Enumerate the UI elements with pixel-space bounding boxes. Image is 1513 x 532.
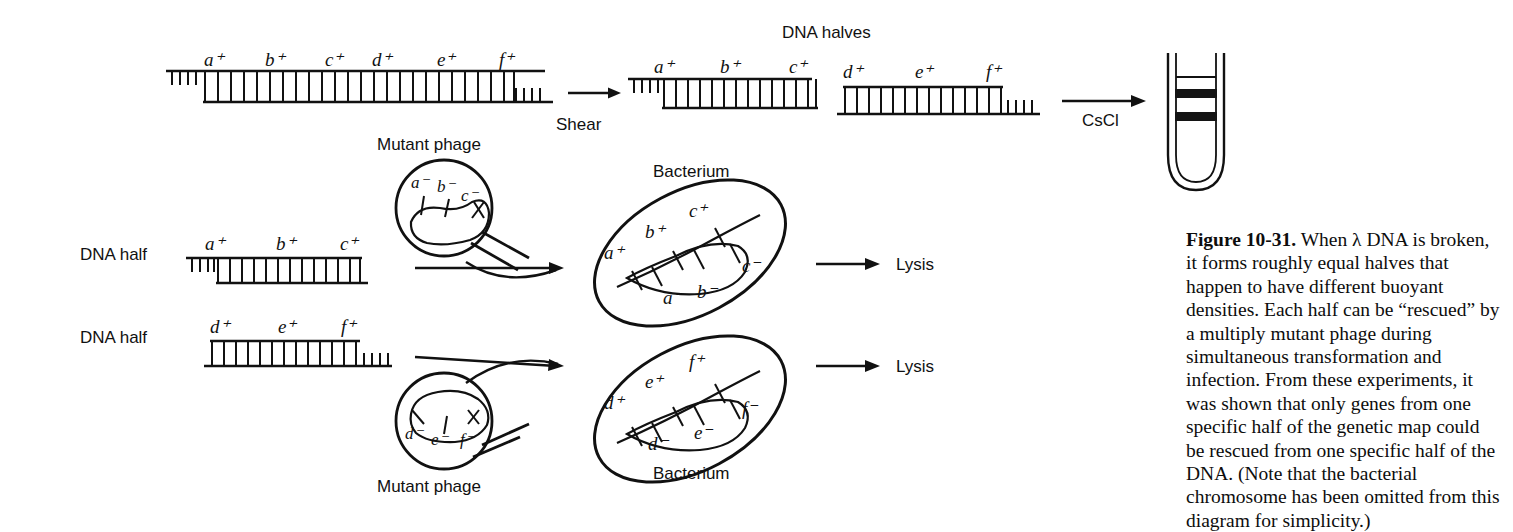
gene-label-f-plus-intact: f⁺ — [499, 50, 514, 69]
figure-caption-body: When λ DNA is broken, it forms roughly e… — [1186, 229, 1500, 531]
arrow-phage-1-to-bacterium — [466, 262, 556, 277]
phage-chromosome — [627, 244, 748, 294]
shear-label: Shear — [556, 116, 601, 133]
half-2-gene-f-plus: f⁺ — [341, 317, 356, 336]
gene-label-d-plus-intact: d⁺ — [372, 50, 392, 69]
arrow-lysis-2 — [816, 360, 880, 372]
half-2-gene-d-plus: d⁺ — [210, 317, 230, 336]
gene-label-c-plus-intact: c⁺ — [325, 50, 343, 69]
half-1-gene-b-plus: b⁺ — [276, 234, 296, 253]
right-sticky-end — [364, 353, 388, 366]
bacterium-2-donor-d-plus: d⁺ — [604, 393, 624, 412]
bacterium-1-phage-a-minus: a⁻ — [663, 288, 683, 307]
sheared-half-def — [837, 87, 1040, 114]
gene-label-c-plus-half: c⁺ — [789, 57, 807, 76]
left-sticky-end — [172, 71, 196, 85]
half-1-gene-a-plus: a⁺ — [205, 234, 225, 253]
phage-2-gene-e-minus: e⁻ — [431, 431, 448, 448]
phage-1-gene-a-minus: a⁻ — [411, 174, 429, 191]
bacterium-1-title: Bacterium — [653, 163, 730, 180]
dna-halves-heading: DNA halves — [782, 24, 871, 41]
arrow-lysis-1 — [816, 258, 880, 270]
gene-label-e-plus-half: e⁺ — [915, 62, 933, 81]
gene-label-b-plus-half: b⁺ — [720, 57, 740, 76]
dna-half-def-fragment — [204, 341, 392, 366]
phage-chromosome — [627, 400, 748, 450]
cscl-label: CsCl — [1082, 112, 1119, 129]
right-sticky-end — [1008, 100, 1032, 114]
left-sticky-end — [192, 258, 214, 272]
bacterium-1-phage-c-minus: c⁻ — [742, 256, 760, 275]
phage-1-gene-b-minus: b⁻ — [437, 178, 455, 195]
figure-number: Figure 10-31. — [1186, 229, 1296, 250]
half-1-gene-c-plus: c⁺ — [340, 234, 358, 253]
lysis-label-1: Lysis — [896, 256, 934, 273]
bacterium-2-title: Bacterium — [653, 465, 730, 482]
base-pair-rungs — [205, 71, 514, 102]
density-band-upper — [1175, 89, 1217, 98]
mutant-phage-2-title: Mutant phage — [377, 478, 481, 495]
mutant-phage-def — [396, 373, 529, 469]
bacterium-1-donor-c-plus: c⁺ — [689, 201, 707, 220]
phage-2-gene-d-minus: d⁻ — [405, 425, 423, 442]
gene-label-d-plus-half: d⁺ — [843, 62, 863, 81]
gene-label-b-plus-intact: b⁺ — [265, 50, 285, 69]
phage-1-gene-c-minus: c⁻ — [461, 187, 478, 204]
base-pair-rungs — [845, 87, 1001, 114]
bacterium-2-phage-f-minus: f⁻ — [742, 399, 757, 418]
mutant-phage-1-title: Mutant phage — [377, 136, 481, 153]
intact-dna-molecule — [166, 71, 553, 102]
sheared-half-abc — [628, 79, 818, 108]
centrifuge-tube — [1168, 53, 1224, 190]
gene-label-e-plus-intact: e⁺ — [437, 50, 455, 69]
gene-label-f-plus-half: f⁺ — [986, 62, 1001, 81]
bacterium-2-phage-e-minus: e⁻ — [694, 423, 712, 442]
base-pair-rungs — [212, 341, 356, 366]
bacterium-2-donor-e-plus: e⁺ — [645, 372, 663, 391]
base-pair-rungs — [218, 258, 360, 283]
left-sticky-end — [634, 79, 658, 93]
half-2-gene-e-plus: e⁺ — [278, 317, 296, 336]
bacterium-2-phage-d-minus: d⁻ — [648, 434, 668, 453]
dna-half-label-2: DNA half — [80, 329, 147, 346]
shear-arrow — [568, 88, 621, 99]
lysis-label-2: Lysis — [896, 358, 934, 375]
dna-half-label-1: DNA half — [80, 246, 147, 263]
right-sticky-end — [516, 88, 540, 102]
density-band-lower — [1175, 112, 1217, 121]
bacterium-1-phage-b-minus: b⁻ — [697, 282, 717, 301]
bacterium-1-donor-b-plus: b⁺ — [645, 222, 665, 241]
gene-label-a-plus-intact: a⁺ — [204, 50, 224, 69]
figure-caption: Figure 10-31. When λ DNA is broken, it f… — [1186, 228, 1501, 532]
gene-label-a-plus-half: a⁺ — [654, 57, 674, 76]
dna-half-abc-fragment — [186, 258, 368, 283]
cscl-arrow — [1062, 95, 1146, 107]
bacterium-2-donor-f-plus: f⁺ — [689, 352, 704, 371]
phage-2-gene-f-minus: f⁻ — [460, 431, 474, 448]
base-pair-rungs — [664, 79, 816, 108]
bacterium-1-donor-a-plus: a⁺ — [604, 243, 624, 262]
